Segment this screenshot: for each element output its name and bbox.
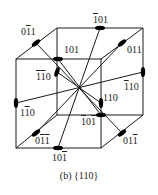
- figure-caption: (b) {110}: [0, 170, 158, 181]
- axis-label--10-1: 101: [81, 117, 96, 127]
- axis-label--1bar01: 101: [93, 15, 108, 25]
- axis-label-0-1-1: 011: [35, 136, 50, 146]
- axis-label-01-1: 011: [123, 136, 138, 146]
- axis-label--110: 110: [124, 82, 139, 92]
- axis-label-10-1: 101: [52, 153, 67, 163]
- axis-label-0-1bar-1: 011: [21, 27, 36, 37]
- axis-label-110: 110: [103, 93, 118, 103]
- axis-label-1-10: 110: [20, 108, 35, 118]
- axis-label--1-10: 110: [36, 72, 51, 82]
- axis-label-011: 011: [127, 45, 142, 55]
- axis-label-101: 101: [64, 45, 79, 55]
